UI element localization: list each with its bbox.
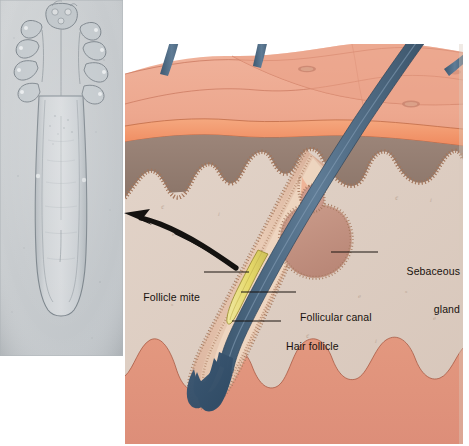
follicle-mite-figure: ℭ ⅈ ℯ ℴ ℯ ℭ ⅈ ℴ ℯ ℭ ⅈ ℴ ℯ ℭ ⅈ bbox=[0, 0, 469, 446]
label-hair-follicle-line1: Hair follicle bbox=[286, 340, 339, 353]
svg-text:ℭ: ℭ bbox=[161, 204, 165, 210]
svg-text:ⅈ: ⅈ bbox=[430, 197, 432, 203]
svg-text:ⅈ: ⅈ bbox=[218, 211, 220, 217]
svg-text:ℭ: ℭ bbox=[395, 195, 399, 201]
svg-text:ℯ: ℯ bbox=[172, 231, 175, 237]
label-hair-follicle: Hair follicle bbox=[286, 315, 339, 378]
label-follicle-mite: Follicle mite bbox=[76, 266, 200, 329]
label-sebaceous-gland-line1: Sebaceous bbox=[336, 265, 460, 278]
label-follicle-mite-line1: Follicle mite bbox=[76, 291, 200, 304]
